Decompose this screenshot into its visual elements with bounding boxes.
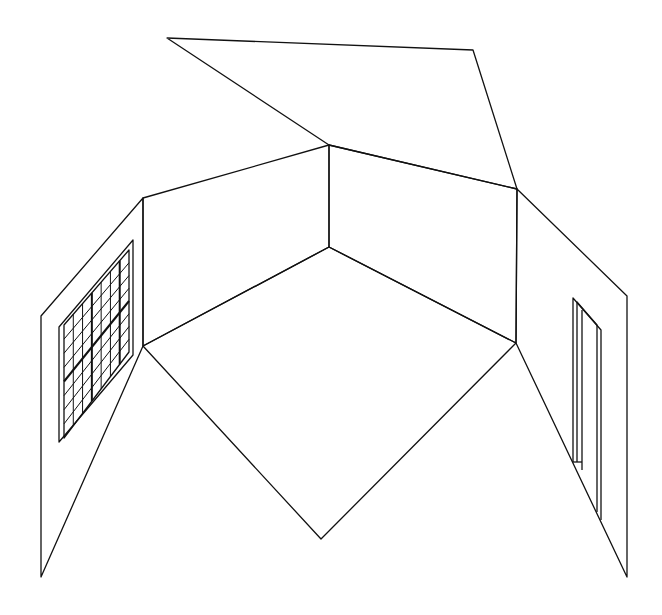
room-diagram [0, 0, 662, 615]
right-wall [516, 189, 627, 577]
floor [143, 247, 516, 539]
ceiling [167, 38, 517, 189]
door [573, 298, 601, 520]
window [59, 240, 133, 442]
back-wall-right [329, 145, 517, 343]
back-wall-left [143, 145, 329, 346]
